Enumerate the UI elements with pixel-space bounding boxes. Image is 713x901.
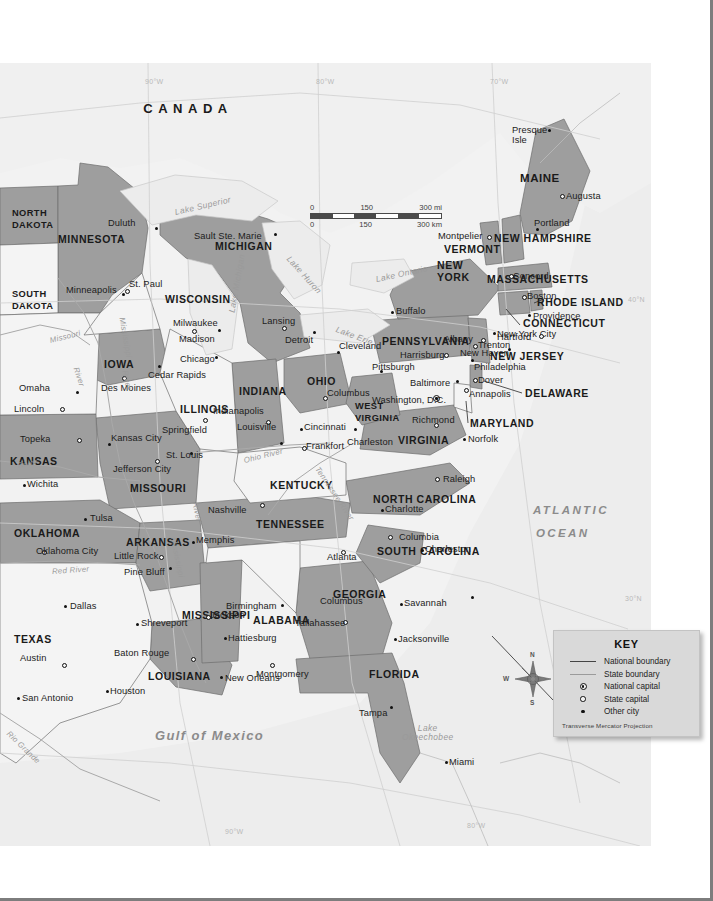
scale-mi-2: 300 mi <box>419 203 442 212</box>
key-item-national-boundary[interactable]: National boundary <box>562 657 691 666</box>
key-item-label: State capital <box>604 695 649 704</box>
scale-km-2: 300 km <box>417 220 442 229</box>
compass-rose: N E S W <box>512 658 554 700</box>
scale-bar: 0 150 300 mi 0 150 300 km <box>310 203 442 229</box>
scale-mi-1: 150 <box>360 203 373 212</box>
compass-label-n: N <box>530 651 535 658</box>
key-item-label: National boundary <box>604 657 670 666</box>
compass-label-w: W <box>503 675 509 682</box>
key-item-other-city[interactable]: Other city <box>562 707 691 716</box>
key-glyph-sym-statecap-icon <box>562 696 604 701</box>
key-item-state-capital[interactable]: State capital <box>562 695 691 704</box>
key-item-list: National boundaryState boundaryNational … <box>562 657 691 716</box>
key-item-state-boundary[interactable]: State boundary <box>562 670 691 679</box>
scale-km-1: 150 <box>359 220 372 229</box>
compass-label-s: S <box>530 699 534 706</box>
compass-icon <box>512 658 554 700</box>
key-glyph-line-nat-icon <box>562 661 604 662</box>
key-projection-note: Transverse Mercator Projection <box>562 722 691 729</box>
scale-km-0: 0 <box>310 220 314 229</box>
scale-bar-graphic <box>310 213 442 219</box>
key-item-label: National capital <box>604 682 660 691</box>
key-item-label: Other city <box>604 707 639 716</box>
map-page: CANADA ATLANTIC OCEAN Gulf of Mexico NOR… <box>0 0 713 901</box>
key-item-national-capital[interactable]: National capital <box>562 682 691 691</box>
map-key[interactable]: KEY National boundaryState boundaryNatio… <box>553 630 700 737</box>
key-item-label: State boundary <box>604 670 660 679</box>
key-glyph-line-state-icon <box>562 674 604 675</box>
key-glyph-sym-other-icon <box>562 710 604 713</box>
key-title: KEY <box>562 638 691 650</box>
scale-mi-0: 0 <box>310 203 314 212</box>
key-glyph-sym-natcap-icon <box>562 683 604 690</box>
